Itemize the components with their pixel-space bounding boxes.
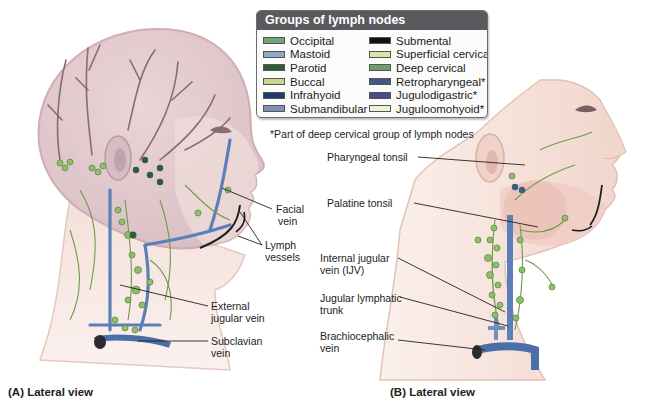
- legend-item-deep-cervical: Deep cervical: [369, 61, 488, 75]
- lymph-node-legend: Groups of lymph nodes Occipital Mastoid …: [256, 10, 488, 118]
- legend-item-infrahyoid: Infrahyoid: [263, 88, 367, 102]
- legend-right-column: Submental Superficial cervical Deep cerv…: [367, 34, 488, 116]
- legend-item-jugulodigastric: Jugulodigastric*: [369, 88, 488, 102]
- label-jugular-lymphatic-trunk: Jugular lymphatic trunk: [320, 292, 402, 316]
- swatch-occipital: [263, 37, 285, 44]
- swatch-superficial-cervical: [369, 51, 391, 58]
- legend-item-superficial-cervical: Superficial cervical: [369, 48, 488, 62]
- label-pharyngeal-tonsil: Pharyngeal tonsil: [327, 151, 408, 163]
- swatch-parotid: [263, 64, 285, 71]
- label-brachiocephalic-vein: Brachiocephalic vein: [320, 330, 394, 354]
- swatch-buccal: [263, 78, 285, 85]
- legend-item-parotid: Parotid: [263, 61, 367, 75]
- label-lymph-vessels: Lymph vessels: [265, 239, 300, 263]
- legend-item-submental: Submental: [369, 34, 488, 48]
- swatch-infrahyoid: [263, 92, 285, 99]
- legend-item-submandibular: Submandibular: [263, 102, 367, 116]
- swatch-jugulodigastric: [369, 92, 391, 99]
- legend-footnote: *Part of deep cervical group of lymph no…: [270, 128, 474, 140]
- panel-b-caption: (B) Lateral view: [390, 386, 475, 398]
- swatch-retropharyngeal: [369, 78, 391, 85]
- swatch-submental: [369, 37, 391, 44]
- legend-item-occipital: Occipital: [263, 34, 367, 48]
- label-internal-jugular-vein: Internal jugular vein (IJV): [320, 252, 389, 276]
- label-subclavian-vein: Subclavian vein: [211, 335, 262, 359]
- label-external-jugular-vein: External jugular vein: [211, 300, 265, 324]
- swatch-deep-cervical: [369, 64, 391, 71]
- label-facial-vein: Facial vein: [276, 203, 304, 227]
- panel-b-head: [380, 80, 626, 380]
- legend-item-retropharyngeal: Retropharyngeal*: [369, 75, 488, 89]
- swatch-juguloomohyoid: [369, 105, 391, 112]
- legend-item-buccal: Buccal: [263, 75, 367, 89]
- legend-left-column: Occipital Mastoid Parotid Buccal Infrahy…: [263, 34, 367, 116]
- legend-title: Groups of lymph nodes: [257, 11, 487, 30]
- label-palatine-tonsil: Palatine tonsil: [327, 197, 392, 209]
- legend-item-mastoid: Mastoid: [263, 48, 367, 62]
- legend-item-juguloomohyoid: Juguloomohyoid*: [369, 102, 488, 116]
- panel-a-caption: (A) Lateral view: [8, 386, 93, 398]
- swatch-mastoid: [263, 51, 285, 58]
- swatch-submandibular: [263, 105, 285, 112]
